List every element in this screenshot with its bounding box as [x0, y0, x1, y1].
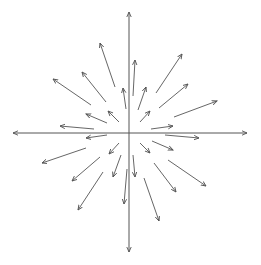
vector-arrow-upper-left [82, 72, 106, 102]
vector-arrow-upper-left [108, 111, 119, 122]
vector-arrow-lower-right [154, 163, 176, 192]
vector-arrow-lower-right [152, 141, 173, 150]
vector-arrow-upper-right [151, 126, 173, 129]
vector-arrow-lower-left [113, 155, 121, 177]
vector-arrow-upper-right [159, 84, 188, 108]
vector-arrow-lower-right [168, 160, 206, 186]
vector-arrow-upper-right [138, 87, 146, 110]
vector-arrow-upper-right [140, 111, 150, 122]
vector-arrow-upper-left [100, 43, 115, 87]
vector-arrow-lower-left [78, 172, 103, 210]
vector-field-diagram [0, 0, 261, 265]
vector-arrow-upper-left [123, 88, 126, 109]
vector-arrow-lower-right [144, 178, 159, 221]
vector-arrow-lower-left [72, 157, 100, 181]
vector-arrow-upper-right [133, 60, 135, 96]
vector-arrow-upper-right [174, 101, 217, 117]
vector-arrow-lower-left [109, 143, 119, 154]
vector-arrow-lower-left [124, 169, 127, 204]
vector-arrow-upper-left [86, 114, 107, 123]
vector-arrow-upper-right [156, 54, 182, 93]
vector-arrow-upper-left [53, 79, 91, 105]
vector-arrow-lower-left [42, 148, 86, 163]
vector-arrow-lower-left [86, 135, 107, 138]
axes [13, 12, 247, 252]
vector-arrow-lower-right [133, 155, 135, 177]
vector-arrow-lower-right [165, 135, 199, 138]
vector-arrow-lower-right [140, 143, 150, 153]
vector-arrow-upper-left [60, 126, 94, 129]
